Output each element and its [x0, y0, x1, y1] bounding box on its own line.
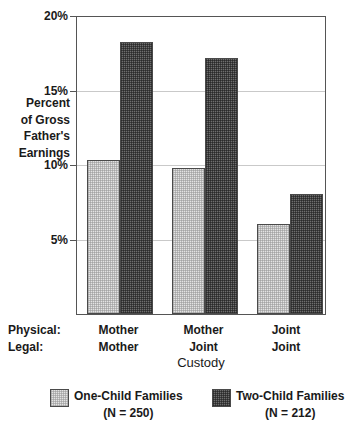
x-axis-title: Custody [76, 355, 326, 370]
bar-two-child-mother-mother [120, 42, 153, 314]
bar-two-child-joint-joint [290, 194, 323, 314]
legend-label-one-child: One-Child Families (N = 250) [74, 388, 183, 422]
bar-one-child-joint-joint [257, 224, 290, 314]
y-axis-title: Percent of Gross Father's Earnings [0, 95, 70, 161]
bar-chart: Percent of Gross Father's Earnings 20% 1… [0, 0, 353, 427]
legend-n-two-child: (N = 212) [236, 405, 344, 422]
bar-one-child-mother-joint [172, 168, 205, 315]
gridline-15 [77, 91, 325, 92]
y-tick-label-10: 10% [8, 159, 68, 171]
legend-swatch-two-child [212, 389, 231, 407]
y-tick-label-20: 20% [8, 10, 68, 22]
y-tick-label-5: 5% [8, 234, 68, 246]
legend-series-name-two-child: Two-Child Families [236, 389, 344, 403]
legend-label-two-child: Two-Child Families (N = 212) [236, 388, 344, 422]
legend-series-name-one-child: One-Child Families [74, 389, 183, 403]
legend-swatch-one-child [50, 389, 69, 407]
category-g1-physical: Mother [76, 323, 161, 337]
category-g1-legal: Mother [76, 340, 161, 354]
category-g3-legal: Joint [246, 340, 326, 354]
category-g3-physical: Joint [246, 323, 326, 337]
plot-area [76, 16, 326, 315]
category-g2-physical: Mother [161, 323, 246, 337]
legend-n-one-child: (N = 250) [74, 405, 183, 422]
bar-one-child-mother-mother [87, 160, 120, 314]
bar-two-child-mother-joint [205, 58, 238, 314]
category-row-key-physical: Physical: [2, 323, 80, 337]
category-g2-legal: Joint [161, 340, 246, 354]
category-row-key-legal: Legal: [2, 340, 80, 354]
y-tick-label-15: 15% [8, 85, 68, 97]
